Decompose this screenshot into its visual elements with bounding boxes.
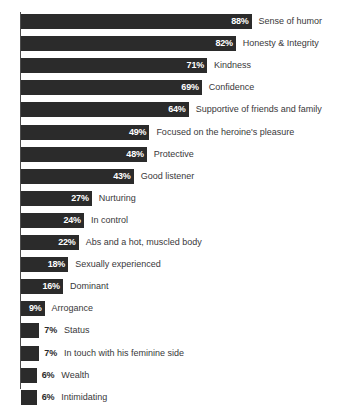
bar-value-label: 49% [129, 128, 146, 137]
bar-value-label: 6% [42, 371, 55, 380]
category-label: Sexually experienced [75, 260, 161, 269]
bar-row: 43%Good listener [21, 169, 194, 184]
bar: 88% [21, 14, 252, 29]
bar-row: 27%Nurturing [21, 191, 136, 206]
bar-row: 69%Confidence [21, 80, 254, 95]
bar [21, 323, 39, 338]
bar-row: 18%Sexually experienced [21, 257, 161, 272]
bar-row: 7%In touch with his feminine side [21, 346, 184, 361]
bar-row: 88%Sense of humor [21, 14, 322, 29]
category-label: Nurturing [99, 194, 136, 203]
bar: 64% [21, 102, 189, 117]
bar-row: 22%Abs and a hot, muscled body [21, 235, 202, 250]
category-label: Protective [154, 150, 194, 159]
bar-row: 7%Status [21, 323, 89, 338]
category-label: Arrogance [52, 304, 94, 313]
category-label: Good listener [141, 172, 195, 181]
bar-value-label: 43% [113, 172, 130, 181]
bar-row: 24%In control [21, 213, 128, 228]
category-label: In touch with his feminine side [64, 349, 184, 358]
bar-row: 64%Supportive of friends and family [21, 102, 322, 117]
category-label: Dominant [70, 282, 109, 291]
bar: 43% [21, 169, 134, 184]
bar-value-label: 24% [63, 216, 80, 225]
bar: 22% [21, 235, 79, 250]
category-label: Supportive of friends and family [196, 105, 322, 114]
bar-row: 49%Focused on the heroine's pleasure [21, 125, 294, 140]
bar: 49% [21, 125, 149, 140]
bar-row: 6%Intimidating [21, 390, 107, 405]
bar-value-label: 88% [231, 17, 248, 26]
bar-value-label: 48% [126, 150, 143, 159]
bar-value-label: 7% [44, 326, 57, 335]
bar-row: 9%Arrogance [21, 301, 93, 316]
bar [21, 346, 39, 361]
category-label: Abs and a hot, muscled body [86, 238, 202, 247]
bar-value-label: 69% [181, 83, 198, 92]
bar: 16% [21, 279, 63, 294]
bar: 27% [21, 191, 92, 206]
bar: 82% [21, 36, 236, 51]
bar: 48% [21, 147, 147, 162]
bar: 24% [21, 213, 84, 228]
category-label: Confidence [209, 83, 255, 92]
bar: 18% [21, 257, 68, 272]
bar [21, 368, 37, 383]
bar-row: 16%Dominant [21, 279, 108, 294]
bar-row: 71%Kindness [21, 58, 251, 73]
bar-value-label: 9% [29, 304, 42, 313]
bar-row: 48%Protective [21, 147, 194, 162]
bar-value-label: 71% [187, 61, 204, 70]
category-label: Kindness [214, 61, 251, 70]
bar: 9% [21, 301, 45, 316]
category-label: In control [91, 216, 128, 225]
bar-value-label: 18% [48, 260, 65, 269]
bar-value-label: 22% [58, 238, 75, 247]
bar-value-label: 82% [215, 39, 232, 48]
category-label: Honesty & Integrity [243, 39, 319, 48]
bar: 69% [21, 80, 202, 95]
bar: 71% [21, 58, 207, 73]
category-label: Intimidating [61, 393, 107, 402]
bar-row: 6%Wealth [21, 368, 89, 383]
bar-value-label: 6% [42, 393, 55, 402]
bar [21, 390, 37, 405]
category-label: Status [64, 326, 90, 335]
plot-area: 88%Sense of humor82%Honesty & Integrity7… [20, 12, 347, 390]
category-label: Focused on the heroine's pleasure [156, 128, 294, 137]
bar-value-label: 16% [42, 282, 59, 291]
bar-value-label: 27% [71, 194, 88, 203]
bar-row: 82%Honesty & Integrity [21, 36, 319, 51]
bar-value-label: 64% [168, 105, 185, 114]
category-label: Wealth [61, 371, 89, 380]
category-label: Sense of humor [259, 17, 323, 26]
bar-value-label: 7% [44, 349, 57, 358]
